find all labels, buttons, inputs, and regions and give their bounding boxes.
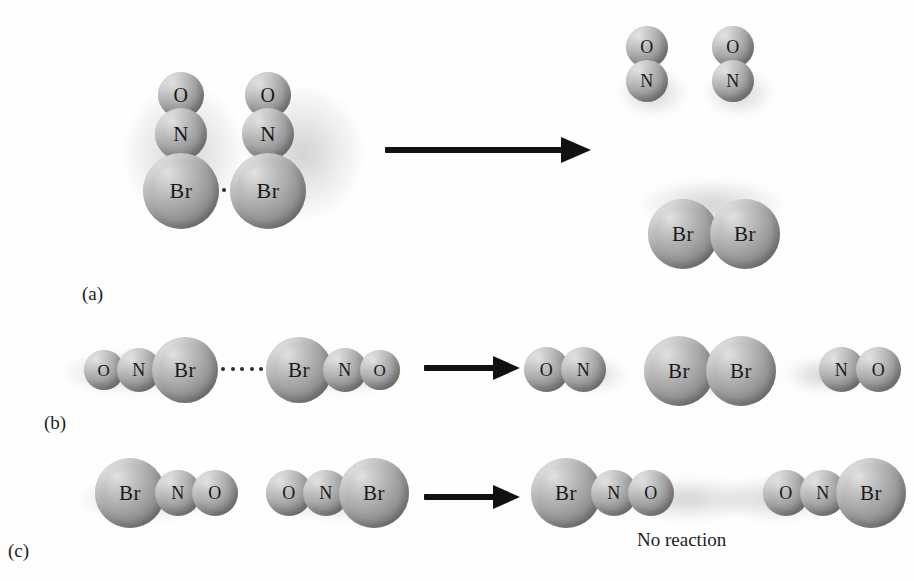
bond-dot <box>231 367 235 371</box>
reaction-arrow-b <box>424 356 524 382</box>
atom-br: Br <box>836 458 906 528</box>
atom-label: O <box>261 85 276 105</box>
atom-label: Br <box>119 483 141 504</box>
atom-label: O <box>282 484 296 502</box>
atom-label: O <box>98 362 111 379</box>
atom-br: Br <box>644 336 714 406</box>
atom-label: N <box>132 361 146 379</box>
atom-label: Br <box>730 361 752 382</box>
panel-label-a: (a) <box>82 283 103 305</box>
atom-label: Br <box>170 180 193 202</box>
atom-label: O <box>174 85 189 105</box>
atom-label: Br <box>734 224 756 245</box>
atom-n: N <box>561 347 606 392</box>
atom-o: O <box>628 470 674 516</box>
bond-dot <box>221 367 225 371</box>
atom-o: O <box>192 470 238 516</box>
atom-o: O <box>360 350 400 390</box>
atom-label: N <box>173 124 189 145</box>
atom-label: N <box>835 361 849 379</box>
atom-label: N <box>726 72 740 90</box>
atom-label: Br <box>288 360 310 381</box>
atom-label: N <box>260 124 276 145</box>
atom-label: N <box>319 484 333 502</box>
reaction-arrow-a <box>385 136 590 164</box>
atom-br: Br <box>706 336 776 406</box>
atom-n: N <box>626 60 668 102</box>
reaction-arrow-c <box>424 485 524 511</box>
arrow-shaft <box>424 494 496 500</box>
atom-label: N <box>607 484 621 502</box>
bond-dot <box>222 188 226 192</box>
bond-dot <box>259 367 263 371</box>
no-reaction-annotation: No reaction <box>637 529 726 551</box>
atom-label: Br <box>257 180 280 202</box>
atom-label: O <box>872 361 886 379</box>
atom-br: Br <box>152 337 218 403</box>
atom-label: Br <box>363 483 385 504</box>
arrow-shaft <box>385 147 565 153</box>
atom-label: Br <box>672 224 694 245</box>
panel-label-b: (b) <box>44 412 66 434</box>
atom-label: O <box>208 484 222 502</box>
atom-label: N <box>640 72 654 90</box>
bond-dot <box>240 367 244 371</box>
atom-n: N <box>712 60 754 102</box>
atom-br: Br <box>143 153 219 229</box>
atom-label: O <box>374 362 387 379</box>
atom-label: Br <box>174 360 196 381</box>
atom-label: N <box>816 484 830 502</box>
atom-label: O <box>779 484 793 502</box>
atom-label: N <box>577 361 591 379</box>
atom-br: Br <box>710 199 780 269</box>
arrow-head <box>561 137 591 163</box>
atom-label: O <box>640 38 654 56</box>
arrow-shaft <box>424 365 496 371</box>
atom-label: O <box>540 361 554 379</box>
atom-label: N <box>171 484 185 502</box>
atom-o: O <box>856 347 901 392</box>
atom-label: O <box>644 484 658 502</box>
arrow-head <box>493 485 520 509</box>
atom-label: Br <box>860 483 882 504</box>
atom-label: Br <box>555 483 577 504</box>
atom-br: Br <box>339 458 409 528</box>
arrow-head <box>493 356 520 380</box>
atom-label: N <box>338 361 352 379</box>
interaction-bond-dots <box>221 366 263 372</box>
bond-dot <box>250 367 254 371</box>
atom-label: O <box>726 38 740 56</box>
panel-label-c: (c) <box>8 540 29 562</box>
atom-label: Br <box>668 361 690 382</box>
atom-br: Br <box>230 153 306 229</box>
atom-br: Br <box>648 199 718 269</box>
figure-canvas: O N Br O N Br O N O N <box>0 0 914 581</box>
